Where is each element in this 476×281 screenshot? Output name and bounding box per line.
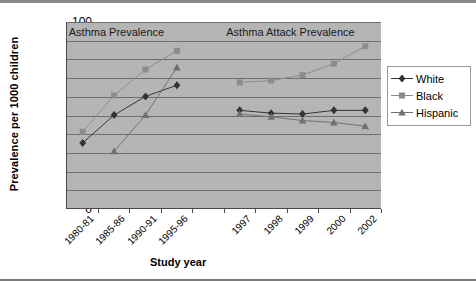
x-tick-mark xyxy=(129,209,130,213)
series-layer xyxy=(67,22,381,208)
legend-swatch-diamond-icon xyxy=(391,73,413,84)
x-axis-title: Study year xyxy=(150,256,206,268)
data-point-diamond xyxy=(174,81,181,89)
data-point-diamond xyxy=(331,106,338,114)
x-tick-mark xyxy=(192,209,193,213)
data-point-square xyxy=(237,79,243,85)
series-black xyxy=(80,43,369,135)
series-line xyxy=(83,51,177,132)
data-point-triangle xyxy=(398,109,406,116)
plot-area: Asthma PrevalenceAsthma Attack Prevalenc… xyxy=(66,22,381,209)
top-divider xyxy=(0,0,476,3)
data-point-diamond xyxy=(362,106,369,114)
legend-label: White xyxy=(416,73,444,85)
x-tick-mark xyxy=(161,209,162,213)
x-tick-mark xyxy=(287,209,288,213)
x-tick-mark xyxy=(98,209,99,213)
data-point-triangle xyxy=(236,110,244,117)
data-point-square xyxy=(268,78,274,84)
data-point-diamond xyxy=(79,139,86,147)
data-point-square xyxy=(331,61,337,67)
data-point-square xyxy=(300,72,306,78)
chart-figure: Prevalence per 1000 children 10090807060… xyxy=(0,0,476,281)
legend-item-white[interactable]: White xyxy=(391,70,467,87)
x-tick-mark xyxy=(318,209,319,213)
legend-item-black[interactable]: Black xyxy=(391,87,467,104)
legend-label: Hispanic xyxy=(416,107,458,119)
legend-item-hispanic[interactable]: Hispanic xyxy=(391,104,467,121)
data-point-diamond xyxy=(142,92,149,100)
data-point-square xyxy=(362,43,368,49)
legend-swatch-square-icon xyxy=(391,90,413,101)
data-point-square xyxy=(174,48,180,54)
x-tick-mark xyxy=(255,209,256,213)
series-white xyxy=(79,81,368,147)
data-point-square xyxy=(399,93,405,99)
data-point-square xyxy=(111,92,117,98)
series-line xyxy=(83,85,177,143)
data-point-square xyxy=(80,129,86,135)
x-tick-mark xyxy=(381,209,382,213)
data-point-triangle xyxy=(142,111,150,118)
data-point-diamond xyxy=(111,111,118,119)
x-tick-mark xyxy=(224,209,225,213)
data-point-triangle xyxy=(173,64,181,71)
legend-swatch-triangle-icon xyxy=(391,107,413,118)
x-tick-mark xyxy=(350,209,351,213)
legend-label: Black xyxy=(416,90,443,102)
legend: WhiteBlackHispanic xyxy=(387,66,471,126)
data-point-square xyxy=(143,66,149,72)
data-point-diamond xyxy=(399,75,406,83)
y-axis-title: Prevalence per 1000 children xyxy=(8,14,20,214)
